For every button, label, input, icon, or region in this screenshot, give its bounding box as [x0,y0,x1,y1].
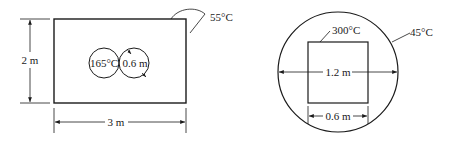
square-temp-label: 300°C [332,24,360,36]
enclosure-temp-callout-right: 45°C [392,26,433,42]
rectangular-enclosure [54,19,186,103]
enclosure-temp-label: 55°C [210,11,233,23]
diameter-label: 1.2 m [325,66,351,78]
width-label: 3 m [108,116,125,128]
cylinder-temp-label: 165°C [90,57,118,69]
left-figure: 2 m 3 m 55°C 165°C 0.6 m [20,9,233,133]
height-label: 2 m [22,54,39,66]
height-dimension: 2 m [20,19,50,103]
enclosure-temp-callout: 55°C [171,9,233,33]
cylinder-enclosure-temp-label: 45°C [410,26,433,38]
side-label: 0.6 m [325,110,351,122]
cylinder-diameter-label: 0.6 m [122,57,148,69]
side-dimension: 0.6 m [308,106,368,124]
diagram-canvas: 2 m 3 m 55°C 165°C 0.6 m [0,0,452,141]
diameter-dimension: 1.2 m [279,66,397,78]
cylinders: 165°C 0.6 m [89,48,149,78]
right-figure: 1.2 m 0.6 m 300°C 45°C [278,12,433,132]
width-dimension: 3 m [54,108,186,133]
square-temp-callout: 300°C [320,24,360,42]
